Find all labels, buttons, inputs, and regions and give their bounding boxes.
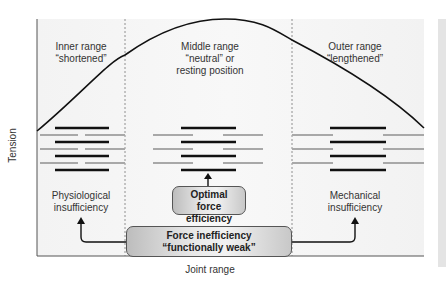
y-axis-label: Tension: [7, 126, 18, 166]
arrow-optimal: [204, 173, 212, 186]
mechanical-line2: insufficiency: [322, 202, 388, 214]
inefficiency-line2: “functionally weak”: [127, 242, 291, 254]
inefficiency-line1: Force inefficiency: [127, 230, 291, 242]
physiological-line1: Physiological: [46, 190, 116, 202]
outer-range-subtitle: “lengthened”: [320, 53, 390, 65]
middle-range-subtitle: “neutral” or: [170, 53, 250, 65]
optimal-line1: Optimal: [173, 189, 245, 201]
middle-range-subtitle-2: resting position: [170, 65, 250, 77]
region-label-outer: Outer range “lengthened”: [320, 41, 390, 65]
optimal-force-efficiency-box: Optimal force efficiency: [172, 186, 246, 215]
mechanical-insufficiency-label: Mechanical insufficiency: [322, 190, 388, 214]
inner-range-subtitle: “shortened”: [50, 53, 112, 65]
physiological-insufficiency-label: Physiological insufficiency: [46, 190, 116, 214]
sarcomere-middle: [153, 128, 263, 170]
inner-range-title: Inner range: [50, 41, 112, 53]
sarcomere-inner: [40, 128, 125, 170]
arrow-mechanical: [292, 217, 359, 242]
optimal-line2: force efficiency: [173, 201, 245, 225]
x-axis-label: Joint range: [180, 264, 240, 276]
physiological-line2: insufficiency: [46, 202, 116, 214]
outer-range-title: Outer range: [320, 41, 390, 53]
sarcomere-outer: [292, 128, 424, 170]
region-label-middle: Middle range “neutral” or resting positi…: [170, 41, 250, 77]
middle-range-title: Middle range: [170, 41, 250, 53]
arrow-physiological: [77, 217, 126, 242]
force-inefficiency-box: Force inefficiency “functionally weak”: [126, 226, 292, 257]
mechanical-line1: Mechanical: [322, 190, 388, 202]
region-label-inner: Inner range “shortened”: [50, 41, 112, 65]
